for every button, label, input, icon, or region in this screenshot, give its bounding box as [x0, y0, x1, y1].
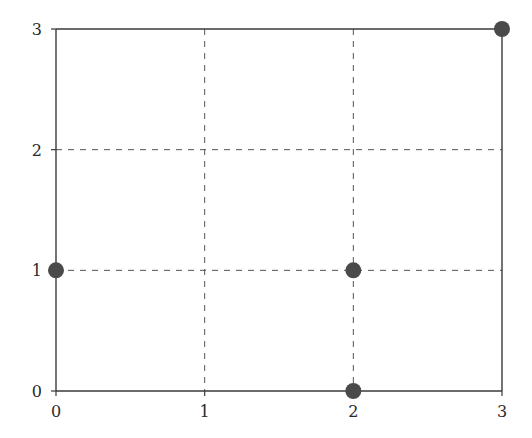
data-point-marker — [494, 21, 510, 37]
x-tick-label: 0 — [51, 402, 61, 421]
x-tick-label: 3 — [497, 402, 507, 421]
data-point-marker — [345, 262, 361, 278]
x-tick-label: 1 — [200, 402, 210, 421]
x-axis-ticks: 0123 — [51, 391, 507, 421]
scatter-chart: 0123 0123 — [0, 0, 532, 438]
x-tick-label: 2 — [348, 402, 358, 421]
y-tick-label: 3 — [32, 20, 42, 39]
data-points — [48, 21, 510, 399]
y-tick-label: 2 — [32, 141, 42, 160]
y-tick-label: 1 — [32, 261, 42, 280]
data-point-marker — [48, 262, 64, 278]
y-axis-ticks: 0123 — [32, 20, 56, 401]
grid-lines — [56, 29, 502, 391]
data-point-marker — [345, 383, 361, 399]
y-tick-label: 0 — [32, 382, 42, 401]
plot-frame — [56, 29, 502, 391]
